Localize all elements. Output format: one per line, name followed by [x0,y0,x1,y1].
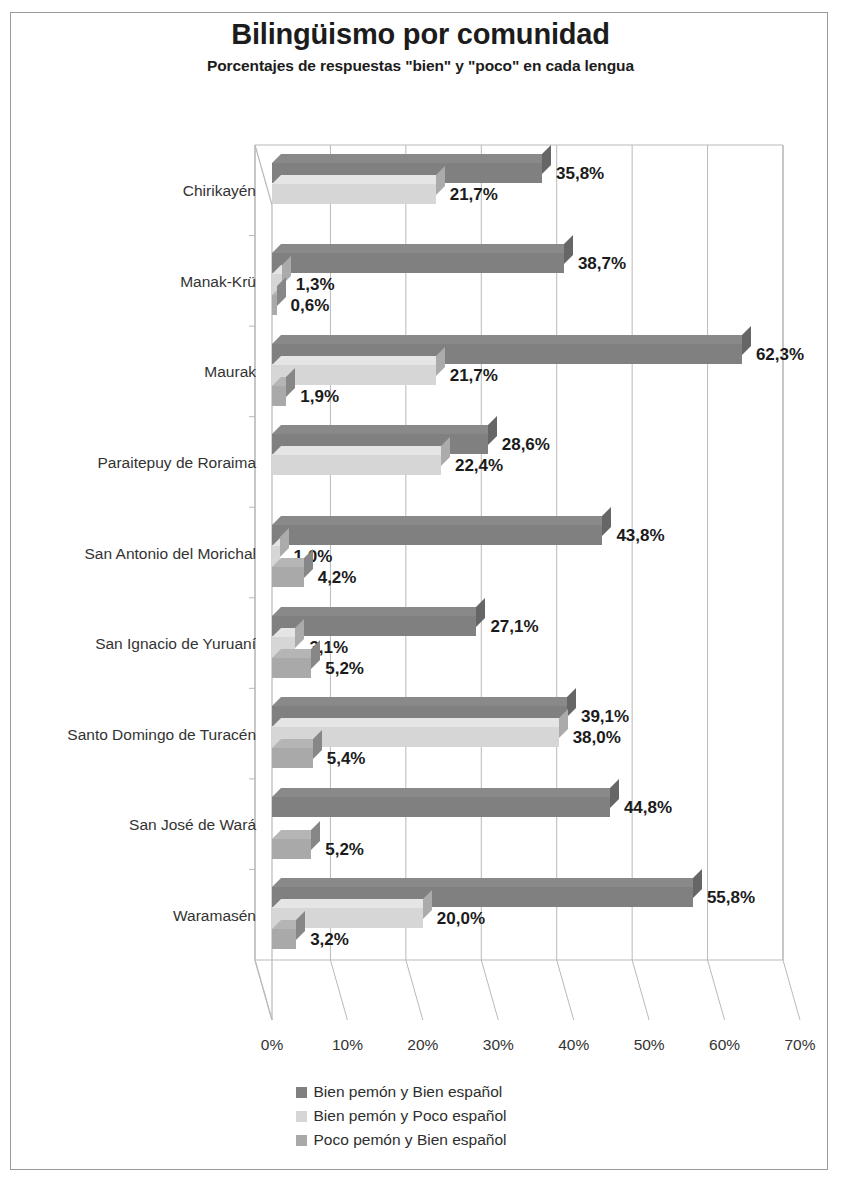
bar-top-face [272,154,551,163]
bar-value-label: 1,3% [296,276,335,293]
bar-value-label: 27,1% [490,618,538,635]
bar-front-face [272,525,602,545]
value-axis-labels: 0%10%20%30%40%50%60%70% [0,1036,841,1062]
bar-top-face [272,175,445,184]
bar [272,295,277,315]
bar-value-label: 22,4% [455,457,503,474]
bar-side-face [693,869,702,898]
bar-front-face [272,839,311,859]
value-axis-tick: 10% [317,1036,377,1054]
bars-layer: 35,8%21,7%38,7%1,3%0,6%62,3%21,7%1,9%28,… [0,0,841,1201]
bar-side-face [567,688,576,717]
bar [272,748,313,768]
bar-top-face [272,446,450,455]
bar-top-face [272,516,611,525]
bar-side-face [742,326,751,355]
value-axis-tick: 70% [770,1036,830,1054]
legend-item[interactable]: Bien pemón y Poco español [296,1104,546,1128]
bar [272,567,304,587]
bar-value-label: 21,7% [450,367,498,384]
bar-value-label: 4,2% [318,569,357,586]
bar-value-label: 0,6% [291,297,330,314]
bar-top-face [272,356,445,365]
value-axis-tick: 30% [468,1036,528,1054]
bar-front-face [272,386,286,406]
bar-value-label: 3,2% [310,931,349,948]
bar-side-face [311,821,320,850]
bar-top-face [272,425,497,434]
legend-label: Bien pemón y Bien español [314,1083,503,1101]
bar-value-label: 28,6% [502,436,550,453]
bar [272,253,564,273]
value-axis-tick: 0% [242,1036,302,1054]
bar [272,797,610,817]
bar [272,525,602,545]
bar-value-label: 38,0% [573,729,621,746]
bar-value-label: 43,8% [616,527,664,544]
legend-label: Bien pemón y Poco español [314,1107,507,1125]
legend-item[interactable]: Poco pemón y Bien español [296,1128,546,1152]
chart-legend: Bien pemón y Bien españolBien pemón y Po… [0,1080,841,1152]
bar-value-label: 5,4% [327,750,366,767]
bar-front-face [272,365,436,385]
legend-item[interactable]: Bien pemón y Bien español [296,1080,546,1104]
bar-top-face [272,878,702,887]
bar-front-face [272,797,610,817]
bar [272,365,436,385]
legend-color-swatch [296,1111,307,1122]
bar-front-face [272,455,441,475]
bar-value-label: 21,7% [450,186,498,203]
bar-front-face [272,253,564,273]
bar-top-face [272,788,619,797]
bar-front-face [272,929,296,949]
bar-side-face [542,145,551,174]
bar-front-face [272,658,311,678]
bar [272,184,436,204]
bar-front-face [272,295,277,315]
bar-top-face [272,244,573,253]
bar-top-face [272,697,576,706]
bar [272,839,311,859]
bar-value-label: 1,9% [300,388,339,405]
bar-value-label: 35,8% [556,165,604,182]
bar-side-face [564,235,573,264]
legend-color-swatch [296,1087,307,1098]
bar-front-face [272,184,436,204]
bar-value-label: 5,2% [325,841,364,858]
bar-value-label: 55,8% [707,889,755,906]
legend-color-swatch [296,1135,307,1146]
chart-plot-area: ChirikayénManak-KrüMaurakParaitepuy de R… [0,0,841,1201]
bar-value-label: 20,0% [437,910,485,927]
bar [272,455,441,475]
bar [272,386,286,406]
bar-value-label: 39,1% [581,708,629,725]
bar [272,658,311,678]
value-axis-tick: 20% [393,1036,453,1054]
value-axis-tick: 50% [619,1036,679,1054]
bar-front-face [272,567,304,587]
bar-side-face [602,507,611,536]
bar-top-face [272,607,485,616]
value-axis-tick: 60% [695,1036,755,1054]
bar-top-face [272,899,432,908]
bar-top-face [272,335,751,344]
bar-top-face [272,718,568,727]
bar-side-face [610,779,619,808]
bar [272,929,296,949]
bar-side-face [476,598,485,627]
bar-value-label: 5,2% [325,660,364,677]
bar-value-label: 62,3% [756,346,804,363]
bar-front-face [272,748,313,768]
legend-label: Poco pemón y Bien español [314,1131,507,1149]
bar-side-face [488,416,497,445]
bar-value-label: 44,8% [624,799,672,816]
bar-value-label: 38,7% [578,255,626,272]
value-axis-tick: 40% [544,1036,604,1054]
